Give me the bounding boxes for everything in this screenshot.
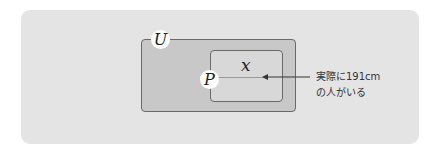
annotation-text: 実際に191cm の人がいる: [316, 69, 380, 101]
subset-label: P: [204, 70, 215, 89]
annotation-line-1: 実際に191cm: [316, 69, 380, 85]
element-x-label: x: [241, 55, 251, 75]
arrow-left-icon: [260, 72, 312, 82]
universe-label-badge: U: [151, 30, 170, 49]
subset-label-badge: P: [200, 70, 219, 89]
element-x-pointer-line: [218, 77, 266, 78]
universe-label: U: [154, 30, 167, 49]
annotation-line-2: の人がいる: [316, 85, 380, 101]
